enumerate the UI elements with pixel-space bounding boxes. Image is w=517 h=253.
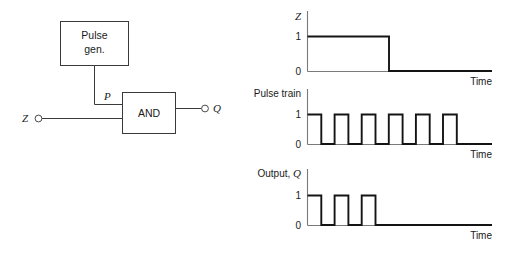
figure-canvas: Pulse gen. P Z AND Q Z 1 0 [0, 0, 517, 253]
pulse-train-waveform-chart: Pulse train 1 0 Time [254, 88, 493, 160]
pulse-generator-block: Pulse gen. [61, 22, 129, 66]
node-label-q: Q [213, 102, 221, 114]
node-label-p: P [103, 90, 111, 102]
pulse-train-signal-trace [308, 115, 493, 145]
output-q-title-text: Output, [257, 168, 293, 179]
output-q-title-symbol: Q [293, 167, 301, 179]
z-waveform-signal-trace [308, 37, 493, 72]
z-waveform-title: Z [295, 10, 302, 22]
circuit-diagram: Pulse gen. P Z AND Q [22, 22, 221, 134]
output-q-ytick-1: 1 [295, 190, 301, 201]
pulse-generator-label-line2: gen. [84, 43, 104, 55]
output-terminal-q[interactable] [202, 105, 209, 112]
output-q-waveform-chart: Output, Q 1 0 Time [257, 167, 492, 241]
pulse-train-ytick-1: 1 [295, 109, 301, 120]
output-q-signal-trace [308, 196, 493, 226]
pulse-train-x-axis-label: Time [470, 149, 492, 160]
node-label-z: Z [22, 112, 29, 124]
output-q-waveform-title: Output, Q [257, 167, 301, 179]
pulse-train-ytick-0: 0 [295, 139, 301, 150]
output-q-ytick-0: 0 [295, 220, 301, 231]
pulse-generator-label-line1: Pulse [81, 29, 107, 41]
z-waveform-ytick-1: 1 [295, 31, 301, 42]
figure-root: Pulse gen. P Z AND Q Z 1 0 [0, 0, 517, 253]
input-terminal-z[interactable] [35, 115, 42, 122]
z-waveform-x-axis-label: Time [470, 76, 492, 87]
z-waveform-ytick-0: 0 [295, 66, 301, 77]
output-q-x-axis-label: Time [470, 230, 492, 241]
and-gate-label: AND [138, 107, 161, 119]
and-gate-block: AND [123, 93, 176, 134]
z-waveform-chart: Z 1 0 Time [295, 10, 493, 87]
pulse-train-waveform-title: Pulse train [254, 88, 301, 99]
